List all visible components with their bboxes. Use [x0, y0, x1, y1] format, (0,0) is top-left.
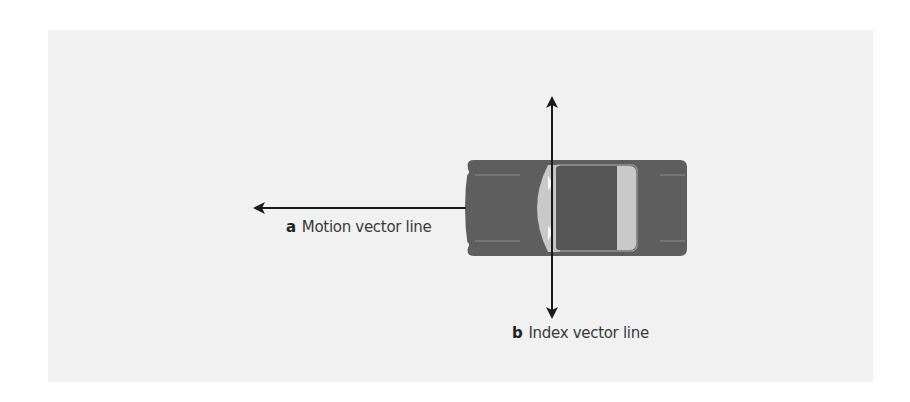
- label-text-a: Motion vector line: [302, 218, 432, 236]
- index-vector-label: bIndex vector line: [512, 324, 649, 342]
- car-icon: [463, 160, 687, 256]
- label-key-a: a: [286, 218, 296, 236]
- label-text-b: Index vector line: [528, 324, 648, 342]
- label-key-b: b: [512, 324, 522, 342]
- diagram-canvas: [0, 0, 910, 402]
- motion-vector-label: aMotion vector line: [286, 218, 431, 236]
